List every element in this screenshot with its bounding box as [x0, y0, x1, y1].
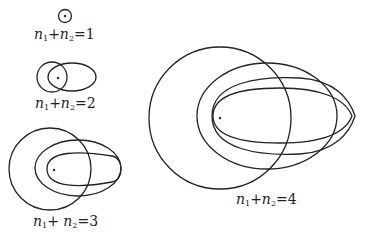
plus-sign: + — [250, 191, 262, 207]
orbit-ellipse — [35, 140, 121, 196]
nucleus-dot — [53, 169, 55, 171]
plus-sign: + — [48, 26, 60, 42]
nucleus-dot — [57, 77, 59, 79]
label-n1-n2-eq-1: n1+n2=1 — [34, 27, 95, 43]
plus-sign: + — [49, 95, 61, 111]
var-n: n — [61, 95, 70, 111]
orbit-group-3 — [9, 128, 121, 210]
var-n: n — [35, 95, 44, 111]
orbit-circle — [37, 62, 67, 92]
var-n: n — [236, 191, 245, 207]
orbit-group-4 — [149, 47, 355, 189]
nucleus-dot — [219, 117, 221, 119]
var-n: n — [63, 213, 72, 229]
sum-value: 4 — [288, 191, 297, 207]
orbit-ellipse — [48, 63, 96, 91]
equals-sign: = — [75, 95, 87, 111]
orbit-group-2 — [37, 62, 96, 92]
equals-sign: = — [276, 191, 288, 207]
var-n: n — [34, 26, 43, 42]
sum-value: 3 — [89, 213, 98, 229]
sum-value: 2 — [87, 95, 96, 111]
equals-sign: = — [77, 213, 89, 229]
orbit-eccentric — [47, 153, 121, 186]
label-n1-n2-eq-4: n1+n2=4 — [236, 192, 297, 208]
nucleus-dot — [64, 15, 66, 17]
label-n1-n2-eq-3: n1+ n2=3 — [33, 214, 98, 230]
var-n: n — [60, 26, 69, 42]
sum-value: 1 — [86, 26, 95, 42]
label-n1-n2-eq-2: n1+n2=2 — [35, 96, 96, 112]
orbit-eccentric-2 — [213, 88, 352, 143]
var-n: n — [262, 191, 271, 207]
equals-sign: = — [74, 26, 86, 42]
plus-sign: + — [47, 213, 63, 229]
var-n: n — [33, 213, 42, 229]
orbit-group-1 — [59, 10, 72, 23]
